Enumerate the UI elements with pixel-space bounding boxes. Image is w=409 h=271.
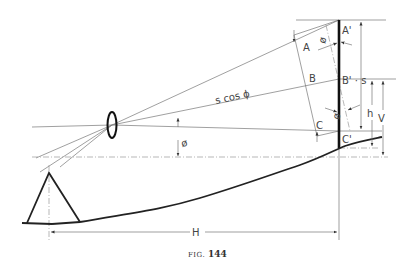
label-c: C [316,120,323,131]
phi-bottom-arrow-right [348,105,360,110]
label-v: V [378,113,385,124]
phi-bottom-arrow-left [325,108,337,112]
label-c-prime: C' [342,134,352,145]
ray-extension-2 [40,125,112,172]
phi-top-arrow-right [341,42,352,45]
ground-profile [80,137,382,222]
perpendicular-top-tick [294,20,339,35]
label-b: B [309,73,316,84]
sight-ray-top [112,20,339,125]
instrument-tripod [27,173,80,223]
tripod-base-right [52,222,80,224]
sight-ray-bottom [112,125,339,131]
ray-extension-3 [60,125,112,167]
figure-caption-number: 144 [208,249,227,259]
label-phi-top: ø [316,36,328,45]
label-phi-bottom: ø [330,112,342,121]
label-s-cos-phi: s cos ϕ [214,88,251,106]
tripod-base [22,223,52,224]
figure-caption-prefix: FIG. [188,251,205,259]
label-a-prime: A' [342,25,352,36]
label-h: h [367,108,373,119]
phi-top-arrow-left [318,43,337,50]
label-phi-center: ø [180,137,188,149]
stadia-diagram: A B C A' B' · s C' s cos ϕ ø ø ø h V H F… [0,0,409,271]
ray-extension-1 [36,125,112,158]
perpendicular-bottom-tick [317,131,339,136]
label-b-prime-s: B' · s [342,75,366,86]
horizontal-axis-left [32,125,112,127]
label-horizontal-distance: H [192,227,200,238]
label-a: A [303,42,310,53]
